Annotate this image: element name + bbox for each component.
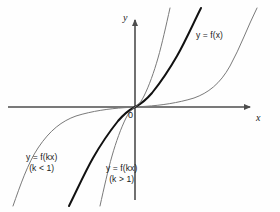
curve-label-k-greater-than-1-line2: (k > 1): [106, 174, 137, 185]
plot-canvas: [0, 0, 280, 212]
curve-label-f-of-x: y = f(x): [196, 30, 223, 41]
origin-label: 0: [128, 110, 133, 120]
curve-label-k-greater-than-1: y = f(kx) (k > 1): [106, 163, 137, 184]
function-transformation-figure: y x 0 y = f(x) y = f(kx) (k < 1) y = f(k…: [0, 0, 280, 212]
y-axis-label: y: [123, 12, 127, 23]
curve-label-k-less-than-1-line1: y = f(kx): [26, 152, 57, 162]
curve-label-k-greater-than-1-line1: y = f(kx): [106, 163, 137, 173]
x-axis-label: x: [256, 112, 260, 123]
curve-label-k-less-than-1-line2: (k < 1): [26, 163, 57, 174]
curve-label-k-less-than-1: y = f(kx) (k < 1): [26, 152, 57, 173]
